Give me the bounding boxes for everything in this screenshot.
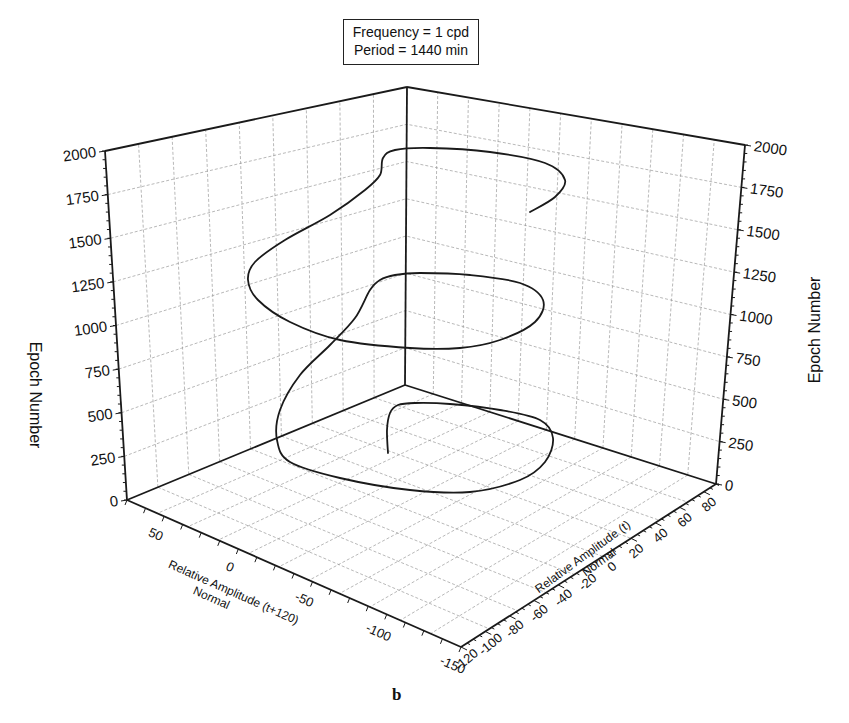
svg-text:250: 250 [89, 448, 116, 468]
svg-text:2000: 2000 [753, 137, 788, 158]
annotation-box: Frequency = 1 cpd Period = 1440 min [343, 19, 479, 65]
svg-text:0: 0 [724, 476, 735, 494]
svg-text:-60: -60 [527, 601, 551, 625]
svg-text:60: 60 [674, 509, 695, 530]
svg-text:0: 0 [109, 492, 120, 510]
svg-text:750: 750 [84, 361, 111, 381]
svg-text:-40: -40 [551, 586, 575, 610]
svg-text:500: 500 [87, 405, 114, 425]
svg-text:50: 50 [146, 524, 165, 544]
3d-plot: 0025025050050075075010001000125012501500… [0, 0, 849, 723]
svg-text:1000: 1000 [73, 318, 108, 339]
period-text: Period = 1440 min [344, 41, 478, 59]
z-axis-label-left: Epoch Number [27, 342, 44, 449]
svg-text:1500: 1500 [67, 230, 102, 251]
figure-panel-label: b [392, 685, 401, 705]
grid-lines [108, 92, 742, 633]
svg-text:-50: -50 [293, 589, 316, 610]
svg-text:750: 750 [735, 349, 762, 369]
axes-frame [105, 87, 745, 647]
svg-text:1750: 1750 [65, 187, 100, 208]
frequency-text: Frequency = 1 cpd [344, 23, 478, 41]
svg-text:1250: 1250 [70, 274, 105, 295]
svg-text:250: 250 [727, 434, 754, 454]
svg-text:20: 20 [626, 540, 647, 561]
svg-text:-100: -100 [364, 620, 394, 644]
svg-text:40: 40 [650, 525, 671, 546]
svg-text:1750: 1750 [749, 179, 784, 200]
svg-text:2000: 2000 [62, 143, 97, 164]
z-axis-label-right: Epoch Number [806, 276, 823, 383]
svg-text:-80: -80 [503, 617, 527, 641]
svg-text:1000: 1000 [738, 307, 773, 328]
svg-text:1250: 1250 [742, 264, 777, 285]
svg-text:1500: 1500 [745, 222, 780, 243]
tick-labels: 0025025050050075075010001000125012501500… [62, 137, 788, 677]
svg-text:80: 80 [699, 494, 720, 515]
svg-text:500: 500 [731, 391, 758, 411]
svg-text:0: 0 [224, 559, 237, 576]
